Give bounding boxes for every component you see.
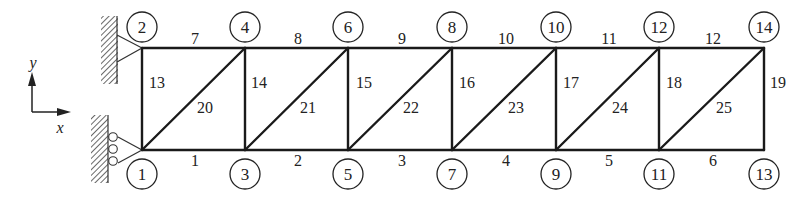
- member-label: 15: [356, 74, 372, 91]
- member-label: 8: [294, 30, 302, 47]
- member-23: [452, 48, 556, 150]
- node-11: 11: [644, 159, 674, 189]
- member-20: [142, 48, 245, 150]
- member-label: 9: [398, 30, 406, 47]
- node-2: 2: [127, 12, 157, 42]
- axes-indicator: y x: [27, 54, 71, 136]
- member-24: [556, 48, 659, 150]
- node-6: 6: [333, 12, 363, 42]
- member-label: 25: [716, 99, 732, 116]
- node-label: 9: [552, 165, 561, 184]
- member-21: [245, 48, 348, 150]
- y-arrow-icon: [28, 72, 36, 86]
- node-12: 12: [644, 12, 674, 42]
- node-9: 9: [541, 159, 571, 189]
- truss-diagram: y x 123456789101112131415161718192021222…: [0, 0, 810, 205]
- node-8: 8: [437, 12, 467, 42]
- member-label: 6: [709, 152, 717, 169]
- x-axis-label: x: [55, 119, 63, 136]
- member-label: 12: [705, 30, 721, 47]
- node-label: 12: [651, 18, 668, 37]
- node-1: 1: [127, 159, 157, 189]
- member-25: [659, 48, 764, 150]
- member-label: 10: [498, 30, 514, 47]
- member-label: 2: [294, 152, 302, 169]
- member-label: 21: [300, 99, 316, 116]
- member-label: 4: [502, 152, 510, 169]
- member-label: 16: [459, 74, 475, 91]
- x-arrow-icon: [57, 108, 71, 116]
- y-axis-label: y: [27, 54, 37, 72]
- node-7: 7: [437, 159, 467, 189]
- node-label: 13: [756, 165, 773, 184]
- member-label: 14: [251, 74, 267, 91]
- member-label: 23: [508, 99, 524, 116]
- member-label: 1: [191, 152, 199, 169]
- member-label: 7: [191, 30, 199, 47]
- node-label: 6: [344, 18, 353, 37]
- member-label: 17: [563, 74, 579, 91]
- member-label: 11: [601, 30, 616, 47]
- node-label: 5: [344, 165, 353, 184]
- member-22: [348, 48, 452, 150]
- node-label: 8: [448, 18, 457, 37]
- node-5: 5: [333, 159, 363, 189]
- node-label: 4: [241, 18, 250, 37]
- member-label: 22: [403, 99, 419, 116]
- member-label: 3: [398, 152, 406, 169]
- node-label: 14: [756, 18, 774, 37]
- node-label: 2: [138, 18, 147, 37]
- members: [142, 48, 764, 150]
- node-label: 11: [651, 165, 667, 184]
- node-10: 10: [541, 12, 571, 42]
- member-label: 24: [612, 99, 628, 116]
- member-label: 13: [149, 74, 165, 91]
- node-label: 1: [138, 165, 147, 184]
- node-4: 4: [230, 12, 260, 42]
- node-14: 14: [749, 12, 779, 42]
- member-label: 20: [197, 99, 213, 116]
- node-3: 3: [230, 159, 260, 189]
- member-label: 18: [666, 74, 682, 91]
- node-label: 10: [548, 18, 565, 37]
- node-label: 7: [448, 165, 457, 184]
- node-13: 13: [749, 159, 779, 189]
- member-label: 5: [605, 152, 613, 169]
- node-label: 3: [241, 165, 250, 184]
- member-label: 19: [770, 74, 786, 91]
